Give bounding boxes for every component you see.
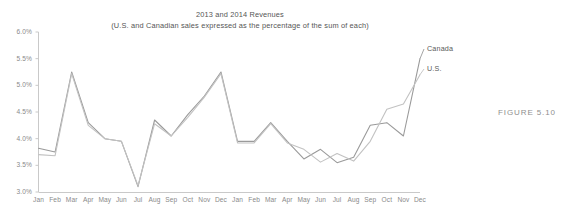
y-axis-label: 3.0%	[10, 188, 32, 195]
leader-line-canada	[420, 49, 424, 59]
figure-container: 2013 and 2014 Revenues (U.S. and Canadia…	[0, 0, 576, 224]
x-axis-label: Jul	[328, 196, 346, 203]
x-axis-label: Mar	[63, 196, 81, 203]
x-axis-label: Sep	[162, 196, 180, 203]
series-label-canada: Canada	[427, 44, 453, 53]
label-leader-lines	[420, 49, 424, 75]
chart-container: 2013 and 2014 Revenues (U.S. and Canadia…	[0, 0, 486, 224]
x-axis-label: Nov	[394, 196, 412, 203]
x-axis-label: Oct	[179, 196, 197, 203]
x-axis-label: Jun	[112, 196, 130, 203]
x-axis-label: Aug	[146, 196, 164, 203]
y-axis-label: 3.5%	[10, 161, 32, 168]
x-axis-label: Sep	[361, 196, 379, 203]
x-axis-label: Jul	[129, 196, 147, 203]
series-line-canada	[39, 59, 421, 187]
x-axis-label: Feb	[245, 196, 263, 203]
x-axis-label: May	[96, 196, 114, 203]
x-axis-label: Jan	[229, 196, 247, 203]
x-axis-label: May	[295, 196, 313, 203]
axis-group	[36, 32, 421, 193]
y-axis-label: 4.0%	[10, 135, 32, 142]
data-series-group	[39, 59, 421, 187]
series-label-us: U.S.	[427, 64, 442, 73]
y-axis-label: 5.0%	[10, 81, 32, 88]
x-axis-label: Feb	[46, 196, 64, 203]
y-axis-label: 5.5%	[10, 55, 32, 62]
figure-caption: FIGURE 5.10	[498, 108, 556, 117]
x-axis-label: Dec	[411, 196, 429, 203]
x-axis-label: Dec	[212, 196, 230, 203]
x-axis-label: Apr	[79, 196, 97, 203]
x-axis-label: Oct	[378, 196, 396, 203]
y-axis-label: 4.5%	[10, 108, 32, 115]
x-axis-label: Mar	[262, 196, 280, 203]
x-axis-label: Nov	[195, 196, 213, 203]
chart-plot-area	[0, 0, 486, 224]
leader-line-us	[420, 69, 424, 75]
x-axis-label: Aug	[345, 196, 363, 203]
x-axis-label: Apr	[278, 196, 296, 203]
x-axis-label: Jun	[311, 196, 329, 203]
y-axis-label: 6.0%	[10, 28, 32, 35]
x-axis-label: Jan	[30, 196, 48, 203]
